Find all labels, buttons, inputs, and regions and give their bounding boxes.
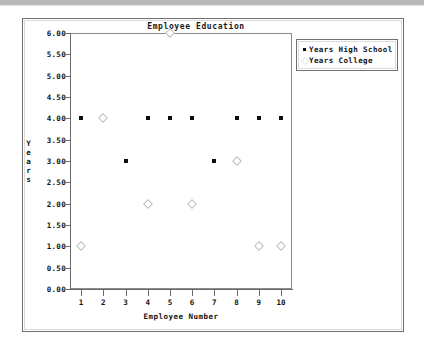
y-axis-line [70,33,71,290]
y-axis-tick-mark [64,118,70,119]
data-point-high-school [146,116,150,120]
y-axis-tick-mark [64,246,70,247]
x-axis-tick-label: 5 [160,298,180,307]
y-axis-tick-label: 4.50 [30,93,66,102]
x-axis-tick-mark [103,290,104,296]
y-axis-tick-mark [64,33,70,34]
y-axis-title-char: a [24,157,33,166]
x-axis-tick-label: 1 [71,298,91,307]
y-axis-tick-mark [64,289,70,290]
x-axis-tick-label: 9 [249,298,269,307]
legend-item[interactable]: Years High School [300,44,393,55]
data-point-high-school [279,116,283,120]
y-axis-tick-label: 3.50 [30,135,66,144]
data-point-high-school [124,159,128,163]
y-axis-tick-mark [64,97,70,98]
y-axis-title-char: Y [24,139,33,148]
data-point-high-school [257,116,261,120]
y-axis-tick-label: 2.00 [30,199,66,208]
legend-diamond-icon [300,58,309,64]
data-point-high-school [212,159,216,163]
y-axis-tick-label: 2.50 [30,178,66,187]
y-axis-tick-mark [64,182,70,183]
x-axis-tick-label: 8 [227,298,247,307]
x-axis-tick-mark [281,290,282,296]
y-axis-tick-mark [64,76,70,77]
x-axis-tick-mark [259,290,260,296]
y-axis-tick-mark [64,225,70,226]
y-axis-title-char: s [24,175,33,184]
x-axis-tick-mark [148,290,149,296]
y-axis-tick-label: 0.50 [30,263,66,272]
y-axis-tick-label: 5.00 [30,71,66,80]
legend-item-label: Years College [309,56,373,65]
x-axis-tick-label: 7 [204,298,224,307]
x-axis-tick-mark [126,290,127,296]
legend-item[interactable]: Years College [300,55,393,66]
y-axis-tick-mark [64,140,70,141]
x-axis-tick-mark [170,290,171,296]
legend-square-icon [300,48,309,51]
y-axis-title-char: r [24,166,33,175]
y-axis-tick-mark [64,161,70,162]
x-axis-tick-mark [214,290,215,296]
x-axis-tick-label: 4 [138,298,158,307]
y-axis-tick-label: 3.00 [30,157,66,166]
x-axis-tick-label: 6 [182,298,202,307]
x-axis-tick-mark [237,290,238,296]
y-axis-tick-mark [64,54,70,55]
x-axis-tick-label: 10 [271,298,291,307]
y-axis-tick-label: 1.00 [30,242,66,251]
x-axis-tick-mark [81,290,82,296]
y-axis-tick-label: 4.00 [30,114,66,123]
x-axis-tick-label: 3 [116,298,136,307]
y-axis-tick-mark [64,204,70,205]
y-axis-tick-label: 6.00 [30,29,66,38]
x-axis-title: Employee Number [70,312,292,321]
data-point-high-school [79,116,83,120]
y-axis-tick-mark [64,268,70,269]
x-axis-tick-mark [192,290,193,296]
y-axis-tick-label: 5.50 [30,50,66,59]
data-point-high-school [168,116,172,120]
x-axis-tick-label: 2 [93,298,113,307]
legend-item-label: Years High School [309,45,393,54]
y-axis-tick-label: 0.00 [30,285,66,294]
y-axis-tick-label: 1.50 [30,221,66,230]
chart-legend: Years High SchoolYears College [296,39,398,71]
y-axis-title-char: e [24,148,33,157]
data-point-high-school [190,116,194,120]
chart-title: Employee Education [96,22,296,31]
y-axis-title: Years [24,139,33,184]
data-point-high-school [235,116,239,120]
